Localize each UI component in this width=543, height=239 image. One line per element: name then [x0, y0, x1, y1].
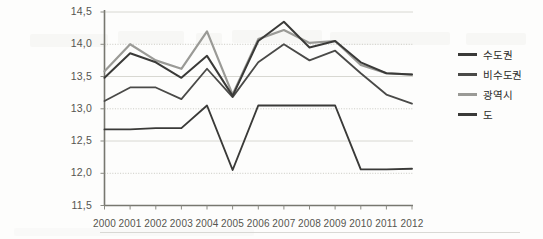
chart-container: 11,512,012,513,013,514,014,5 20002001200…: [0, 0, 543, 239]
legend-item[interactable]: 도: [458, 106, 522, 123]
y-axis-tick-label: 12,5: [62, 134, 92, 146]
legend-swatch-icon: [458, 113, 477, 116]
legend-item-label: 도: [483, 107, 493, 122]
y-axis-tick-label: 14,0: [62, 37, 92, 49]
series-line: [105, 22, 413, 96]
y-axis-tick-label: 13,0: [62, 102, 92, 114]
legend-swatch-icon: [458, 93, 477, 96]
series-line: [105, 106, 413, 171]
legend-item[interactable]: 광역시: [458, 86, 522, 103]
y-axis-tick-label: 13,5: [62, 70, 92, 82]
legend-item[interactable]: 비수도권: [458, 66, 522, 83]
chart-legend: 수도권비수도권광역시도: [458, 46, 522, 126]
x-axis-tick-label: 2012: [395, 218, 429, 229]
legend-item-label: 광역시: [483, 87, 512, 102]
y-axis-tick-label: 12,0: [62, 166, 92, 178]
legend-item-label: 비수도권: [483, 67, 522, 82]
legend-swatch-icon: [458, 73, 477, 76]
series-line: [105, 44, 413, 103]
legend-item[interactable]: 수도권: [458, 46, 522, 63]
legend-item-label: 수도권: [483, 47, 512, 62]
y-axis-tick-label: 11,5: [62, 199, 92, 211]
legend-swatch-icon: [458, 53, 477, 56]
y-axis-tick-label: 14,5: [62, 5, 92, 17]
